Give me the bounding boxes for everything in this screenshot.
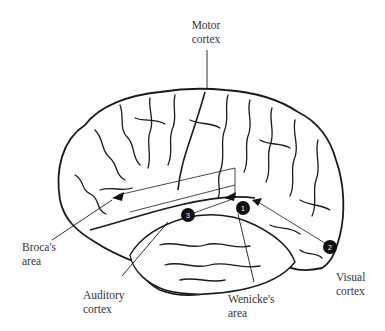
label-broca-line2: area <box>22 254 56 268</box>
label-visual-line1: Visual <box>336 270 365 284</box>
label-motor-line1: Motor <box>180 18 232 32</box>
brain-diagram: 1 2 3 <box>0 0 385 331</box>
label-broca-line1: Broca's <box>22 240 56 254</box>
svg-text:3: 3 <box>186 212 190 219</box>
label-auditory-line1: Auditory <box>83 288 125 302</box>
svg-text:2: 2 <box>328 244 332 251</box>
marker-3: 3 <box>181 208 195 222</box>
label-wernickes-area: Wenicke's area <box>228 292 275 320</box>
label-brocas-area: Broca's area <box>22 240 56 268</box>
label-visual-cortex: Visual cortex <box>336 270 365 298</box>
svg-text:1: 1 <box>241 205 245 212</box>
label-auditory-line2: cortex <box>83 302 125 316</box>
label-motor-line2: cortex <box>180 32 232 46</box>
label-visual-line2: cortex <box>336 284 365 298</box>
label-auditory-cortex: Auditory cortex <box>83 288 125 316</box>
marker-2: 2 <box>323 240 337 254</box>
label-wernicke-line1: Wenicke's <box>228 292 275 306</box>
marker-1: 1 <box>236 201 250 215</box>
label-wernicke-line2: area <box>228 306 275 320</box>
label-motor-cortex: Motor cortex <box>180 18 232 46</box>
